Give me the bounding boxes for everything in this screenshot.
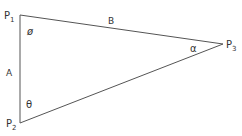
angle-phi: ø xyxy=(26,26,34,37)
side-label-b: B xyxy=(108,16,114,26)
angle-theta: θ xyxy=(26,99,32,110)
label-p2: P2 xyxy=(6,118,17,132)
angle-alpha: α xyxy=(190,43,197,54)
label-p3: P3 xyxy=(226,39,237,53)
side-label-a: A xyxy=(6,68,13,78)
triangle-diagram: P1 P2 P3 B A ø θ α xyxy=(0,0,242,136)
triangle xyxy=(20,15,223,123)
label-p1: P1 xyxy=(4,10,15,24)
